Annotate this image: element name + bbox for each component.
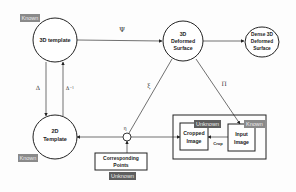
eta-junction-node [123,133,131,141]
svg-text:2D: 2D [51,128,58,134]
edge-label-pi: Π [221,80,226,87]
node-corresponding-points[interactable]: Corresponding Points [95,153,147,170]
badge-input-image-known: Known [244,120,265,128]
edge-label-eta: η [124,125,127,132]
svg-text:Input: Input [235,131,248,137]
svg-text:Deformed: Deformed [171,38,195,44]
edge-label-psi: Ψ [119,26,125,34]
svg-text:Image: Image [234,139,249,145]
edge-pi [196,59,240,124]
node-3d-deformed-surface[interactable]: 3D Deformed Surface [163,21,203,61]
node-3d-template-label: 3D template [39,37,70,43]
badge-2d-template-known: Known [18,154,38,162]
svg-text:Corresponding: Corresponding [103,155,139,161]
svg-text:Points: Points [113,162,128,168]
svg-text:Unknown: Unknown [196,121,219,127]
diagram-canvas: Ψ Δ Δ⁻¹ ξ Π η 3D template Known 3D Defor… [0,0,296,192]
svg-text:Surface: Surface [253,46,271,51]
svg-text:Known: Known [22,15,39,21]
svg-text:Unknown: Unknown [111,173,134,179]
svg-text:Known: Known [246,121,263,127]
svg-text:Surface: Surface [173,45,192,51]
edge-psi [77,40,162,41]
svg-text:Template: Template [43,136,67,142]
node-3d-template[interactable]: 3D template [33,18,77,62]
node-2d-template[interactable]: 2D Template [33,115,77,159]
badge-corresponding-points-unknown: Unknown [109,172,136,180]
svg-text:Image: Image [187,138,202,144]
svg-text:Deformed: Deformed [251,39,273,44]
badge-cropped-image-unknown: Unknown [194,120,221,128]
edge-xi [129,59,172,133]
svg-text:Known: Known [20,155,37,161]
edge-label-delta: Δ [36,84,41,91]
badge-3d-template-known: Known [20,14,40,22]
node-dense-3d-deformed-surface[interactable]: Dense 3D Deformed Surface [245,27,279,57]
svg-text:Cropped: Cropped [183,130,204,136]
svg-text:Dense 3D: Dense 3D [251,32,273,37]
svg-text:3D: 3D [180,31,187,37]
edge-label-delta-inverse: Δ⁻¹ [66,85,74,91]
edge-label-crop: Crop [213,141,223,146]
edge-label-xi: ξ [147,82,151,90]
node-input-image[interactable]: Input Image [228,124,255,151]
